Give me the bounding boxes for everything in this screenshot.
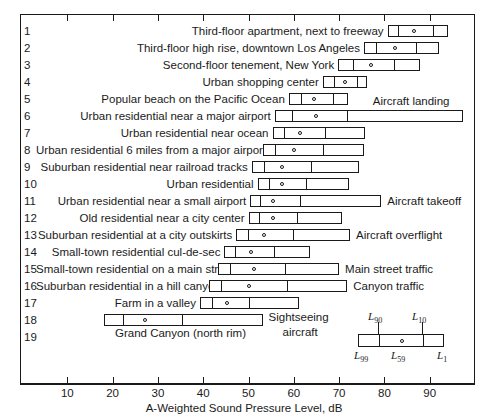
chart-row: Small-town residential cul-de-sec (0, 243, 488, 261)
bar-median-marker (249, 250, 253, 254)
chart-row: Urban residential near a small airportAi… (0, 192, 488, 210)
row-label: Urban residential near ocean (36, 124, 269, 142)
top-tick-50 (249, 14, 250, 21)
bar-divider-l90 (221, 281, 222, 291)
percentile-bar (252, 161, 359, 173)
bar-divider-l10 (325, 128, 326, 138)
x-tick-label-50: 50 (234, 387, 264, 399)
legend-label-l1: L1 (437, 349, 447, 364)
top-tick-80 (384, 14, 385, 21)
legend-median-dot (400, 339, 404, 343)
bar-divider-l90 (398, 26, 399, 36)
chart-row: Small-town residential on a main streetM… (0, 260, 488, 278)
bar-divider-l90 (292, 111, 293, 121)
bar-divider-l10 (416, 43, 417, 53)
row-source-annotation: Aircraft overflight (356, 226, 442, 244)
row-label: Popular beach on the Pacific Ocean (36, 90, 285, 108)
row-source-annotation: aircraft (283, 325, 318, 339)
row-label: Second-floor tenement, New York (36, 56, 334, 74)
bar-median-marker (312, 97, 316, 101)
x-tick-70 (339, 377, 340, 384)
row-label: Suburban residential in a hill canyon (36, 277, 205, 295)
chart-row: Second-floor tenement, New York (0, 56, 488, 74)
bar-divider-l90 (248, 230, 249, 240)
row-label: Old residential near a city center (36, 209, 245, 227)
row-label: Suburban residential near railroad track… (36, 158, 248, 176)
bar-divider-l10 (323, 145, 324, 155)
bar-divider-l90 (260, 196, 261, 206)
bar-divider-l10 (274, 247, 275, 257)
row-source-annotation: Aircraft landing (373, 92, 450, 110)
bar-divider-l90 (301, 94, 302, 104)
top-tick-40 (203, 14, 204, 21)
chart-row: Old residential near a city center (0, 209, 488, 227)
bar-median-marker (262, 233, 266, 237)
bar-median-marker (252, 267, 256, 271)
x-tick-90 (430, 377, 431, 384)
bar-median-marker (271, 199, 275, 203)
top-tick-70 (339, 14, 340, 21)
bar-divider-l90 (275, 145, 276, 155)
bar-divider-l10 (287, 281, 288, 291)
percentile-bar (218, 263, 339, 275)
bar-median-marker (292, 148, 296, 152)
row-number: 19 (24, 328, 37, 346)
bar-median-marker (280, 165, 284, 169)
x-tick-label-70: 70 (324, 387, 354, 399)
bar-divider-l10 (433, 26, 434, 36)
percentile-bar (209, 280, 347, 292)
top-tick-20 (113, 14, 114, 21)
x-axis-title: A-Weighted Sound Pressure Level, dB (0, 402, 488, 414)
x-tick-40 (203, 377, 204, 384)
bar-divider-l90 (353, 60, 354, 70)
bar-median-marker (225, 301, 229, 305)
bar-median-marker (280, 182, 284, 186)
percentile-bar (249, 212, 343, 224)
bar-median-marker (247, 284, 251, 288)
x-tick-50 (249, 377, 250, 384)
bar-median-marker (343, 80, 347, 84)
x-tick-80 (384, 377, 385, 384)
bar-divider-l90 (264, 162, 265, 172)
bar-divider-l90 (259, 213, 260, 223)
bar-divider-l90 (284, 128, 285, 138)
bar-median-marker (143, 318, 147, 322)
bar-divider-l10 (300, 196, 301, 206)
row-label: Urban residential near a major airport (36, 107, 271, 125)
bar-divider-l90 (123, 315, 124, 325)
row-source-annotation: Sightseeing (269, 310, 329, 324)
percentile-bar (338, 59, 420, 71)
percentile-bar (104, 314, 263, 326)
x-tick-10 (67, 377, 68, 384)
chart-row: Suburban residential in a hill canyonCan… (0, 277, 488, 295)
bar-divider-l90 (334, 77, 335, 87)
noise-level-chart: 12345678910111213141516171819Third-floor… (0, 0, 488, 419)
row-label: Suburban residential at a city outskirts (36, 226, 232, 244)
x-axis-line (20, 384, 475, 385)
legend-divider-l10 (423, 335, 424, 346)
row-label: Urban residential 6 miles from a major a… (36, 141, 259, 159)
bar-divider-l10 (293, 230, 294, 240)
row-source-annotation: Aircraft takeoff (387, 192, 461, 210)
bar-median-marker (393, 46, 397, 50)
legend-label-l90: L90 (368, 310, 382, 325)
row-source-annotation: Canyon traffic (353, 277, 424, 295)
bar-divider-l10 (285, 264, 286, 274)
bar-median-marker (298, 131, 302, 135)
bar-divider-l10 (333, 94, 334, 104)
percentile-bar (200, 297, 299, 309)
row-label: Small-town residential cul-de-sec (36, 243, 220, 261)
chart-row: Third-floor apartment, next to freeway (0, 22, 488, 40)
top-tick-90 (430, 14, 431, 21)
chart-row: Suburban residential at a city outskirts… (0, 226, 488, 244)
row-label: Urban residential (36, 175, 254, 193)
bar-divider-l90 (235, 247, 236, 257)
row-source-annotation: Main street traffic (345, 260, 433, 278)
top-tick-10 (67, 14, 68, 21)
percentile-bar (250, 195, 381, 207)
x-tick-30 (158, 377, 159, 384)
bar-divider-l10 (311, 162, 312, 172)
legend-label-l10: L10 (412, 310, 426, 325)
x-tick-label-40: 40 (188, 387, 218, 399)
percentile-bar (364, 42, 439, 54)
